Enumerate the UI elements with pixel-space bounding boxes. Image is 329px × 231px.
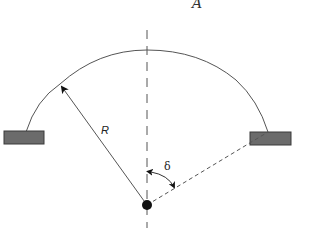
radius-label: R (101, 124, 109, 136)
angle-arrow (151, 172, 174, 187)
arc-diagram: A R δ (0, 0, 329, 231)
right-support (250, 132, 291, 145)
angle-label: δ (164, 160, 171, 173)
left-support (4, 131, 44, 144)
top-label: A (190, 0, 202, 11)
radius-arrow (62, 87, 147, 205)
center-point (142, 200, 152, 210)
